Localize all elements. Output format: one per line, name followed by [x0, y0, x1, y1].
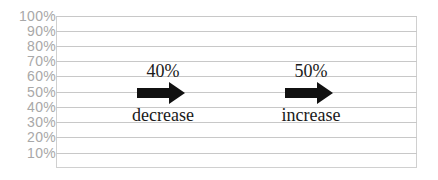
gridline	[56, 61, 417, 62]
y-tick-label: 30%	[0, 115, 56, 129]
gridline	[56, 76, 417, 77]
y-tick-label: 80%	[0, 39, 56, 53]
y-tick-label: 50%	[0, 85, 56, 99]
annotation-value-decrease: 40%	[133, 62, 193, 80]
annotation-value-increase: 50%	[281, 62, 341, 80]
annotation-label-increase: increase	[266, 106, 356, 124]
y-tick-label: 40%	[0, 100, 56, 114]
y-tick-label: 100%	[0, 9, 56, 23]
y-tick-label: 90%	[0, 24, 56, 38]
gridline	[56, 137, 417, 138]
y-tick-label: 10%	[0, 146, 56, 160]
y-tick-label: 70%	[0, 54, 56, 68]
right-arrow-icon	[285, 81, 335, 105]
gridline	[56, 92, 417, 93]
y-tick-label: 20%	[0, 130, 56, 144]
annotation-label-decrease: decrease	[118, 106, 208, 124]
right-arrow-icon	[137, 81, 187, 105]
gridline	[56, 107, 417, 108]
gridline	[56, 46, 417, 47]
gridline	[56, 153, 417, 154]
gridline	[56, 122, 417, 123]
y-tick-label: 60%	[0, 69, 56, 83]
gridline	[56, 16, 417, 17]
gridline	[56, 31, 417, 32]
